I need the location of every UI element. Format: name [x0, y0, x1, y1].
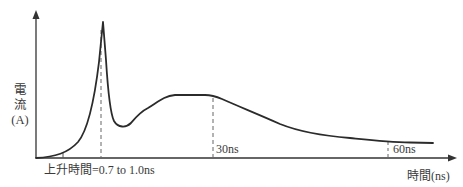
x-axis-label: 時間(ns) — [407, 166, 450, 184]
y-axis-arrow-icon — [33, 10, 40, 19]
x-axis-arrow-icon — [448, 155, 457, 162]
label-30ns: 30ns — [216, 142, 239, 157]
rise-time-label: 上升時間=0.7 to 1.0ns — [44, 160, 155, 178]
label-60ns: 60ns — [393, 142, 416, 157]
y-axis-label-unit: (A) — [8, 113, 32, 128]
waveform-chart — [0, 0, 463, 187]
y-axis-label: 電 流 (A) — [8, 83, 32, 128]
y-axis-label-line1: 電 — [8, 83, 32, 98]
y-axis-label-line2: 流 — [8, 98, 32, 113]
current-waveform-curve — [36, 22, 433, 158]
